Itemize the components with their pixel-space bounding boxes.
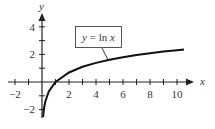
function-label: y = ln x: [81, 31, 115, 43]
ln-chart: −2 2 4 6 8 10 4 2 −2 x y y = ln x: [0, 0, 215, 129]
x-axis-arrow-icon: [186, 79, 194, 86]
y-tick-label: 2: [30, 48, 36, 60]
x-tick-label: 2: [66, 88, 72, 100]
x-tick-label: 4: [93, 88, 99, 100]
x-tick-label: 10: [172, 88, 184, 100]
y-axis-label: y: [38, 0, 44, 12]
annotation-leader: [102, 48, 108, 60]
x-tick-label: 6: [120, 88, 126, 100]
x-axis-label: x: [199, 75, 205, 87]
x-tick-label: 8: [147, 88, 153, 100]
x-tick-label: −2: [9, 88, 21, 100]
y-axis-arrow-icon: [39, 13, 46, 21]
y-tick-label: −2: [23, 103, 35, 115]
ln-curve: [43, 50, 184, 118]
y-tick-label: 4: [30, 21, 36, 33]
